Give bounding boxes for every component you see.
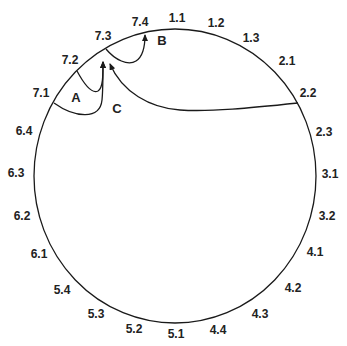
state-ring (34, 29, 316, 323)
state-label: 2.1 (279, 54, 296, 68)
state-label: 7.4 (132, 15, 149, 29)
state-label: 4.3 (252, 307, 269, 321)
state-label: 4.2 (285, 281, 302, 295)
state-label: 3.2 (319, 209, 336, 223)
state-label: 5.3 (88, 307, 105, 321)
state-label: 1.1 (169, 11, 186, 25)
state-label: 4.4 (210, 323, 227, 337)
ring-labels: 1.11.21.32.12.22.33.13.24.14.24.34.45.15… (8, 11, 339, 341)
state-label: 7.3 (95, 29, 112, 43)
state-label: 5.4 (54, 283, 71, 297)
state-label: 1.3 (243, 31, 260, 45)
transition-2.2-to-7.3 (110, 64, 298, 111)
state-label: 2.2 (300, 86, 317, 100)
state-label: 1.2 (208, 16, 225, 30)
transition-7.3-to-7.4 (106, 35, 145, 63)
state-label: 6.4 (16, 124, 33, 138)
state-label: 5.2 (126, 322, 143, 336)
state-label: 2.3 (316, 125, 333, 139)
state-label: 4.1 (307, 245, 324, 259)
transition-annotation: A (71, 90, 81, 105)
state-label: 6.1 (31, 247, 48, 261)
transition-annotation: B (157, 33, 166, 48)
state-label: 6.3 (8, 166, 25, 180)
state-label: 5.1 (168, 327, 185, 341)
state-label: 7.2 (62, 53, 79, 67)
state-ring-diagram: 1.11.21.32.12.22.33.13.24.14.24.34.45.15… (0, 0, 347, 346)
state-label: 3.1 (322, 167, 339, 181)
transition-annotation: C (112, 101, 122, 116)
state-label: 7.1 (33, 86, 50, 100)
diagram-canvas: 1.11.21.32.12.22.33.13.24.14.24.34.45.15… (0, 0, 347, 346)
state-label: 6.2 (14, 209, 31, 223)
